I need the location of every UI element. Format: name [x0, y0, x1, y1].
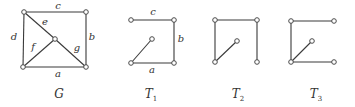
vertex-br: [332, 60, 337, 65]
vertex-c: [235, 39, 240, 44]
graph-caption-t2: T2: [232, 87, 244, 103]
graph-t2: T2: [213, 18, 260, 103]
vertex-tl: [213, 18, 218, 23]
vertex-br: [84, 65, 89, 70]
vertex-tl: [289, 19, 294, 24]
edge-label-a: a: [55, 68, 61, 79]
vertex-bl: [213, 60, 218, 65]
edge-e: [24, 12, 55, 39]
vertex-br: [255, 60, 260, 65]
graph-caption-t3: T3: [310, 87, 322, 103]
graph-caption-t1: T1: [145, 87, 157, 103]
edge-d: [23, 12, 24, 67]
graph-t1: cbaT1: [129, 6, 185, 103]
vertex-tr: [172, 18, 177, 23]
vertex-tr: [255, 18, 260, 23]
vertex-tr: [332, 19, 337, 24]
edge-label-a: a: [149, 64, 155, 75]
vertex-c: [53, 37, 58, 42]
edge-label-b: b: [178, 33, 184, 44]
edge-label-b: b: [89, 31, 95, 42]
edge-label-c: c: [150, 6, 156, 17]
graph-g: cbadefgG: [11, 0, 95, 101]
graph-spanning-trees-diagram: cbadefgGcbaT1T2T3: [0, 0, 355, 107]
edge-g: [55, 39, 86, 67]
edge-label-e: e: [42, 16, 48, 27]
vertex-bl: [129, 61, 134, 66]
vertex-tr: [84, 10, 89, 15]
vertex-c: [150, 37, 155, 42]
graph-caption-g: G: [54, 87, 64, 101]
edge-bl-c: [291, 41, 312, 62]
vertex-br: [172, 61, 177, 66]
edge-label-f: f: [30, 41, 37, 52]
vertex-c: [310, 39, 315, 44]
edge-f: [23, 39, 55, 67]
vertex-tl: [22, 10, 27, 15]
edge-label-d: d: [11, 31, 17, 42]
vertex-bl: [289, 60, 294, 65]
vertex-bl: [21, 65, 26, 70]
graph-t3: T3: [289, 19, 337, 103]
vertex-tl: [129, 18, 134, 23]
edge-bl-c: [215, 41, 237, 62]
edge-bl-c: [131, 39, 152, 63]
edge-label-g: g: [74, 42, 80, 53]
edge-label-c: c: [55, 0, 61, 11]
